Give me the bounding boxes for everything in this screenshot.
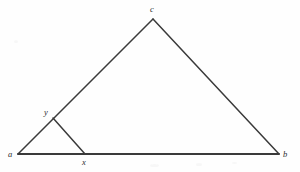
vertex-label-c: c (150, 5, 154, 14)
vertex-label-y: y (44, 108, 48, 117)
scan-artifact (14, 40, 18, 43)
vertex-label-b: b (283, 150, 287, 159)
scan-artifact (232, 162, 237, 164)
segment-ac (18, 19, 153, 154)
diagram-canvas: c y a x b (0, 0, 300, 172)
segments-group (18, 19, 279, 154)
scan-artifact (196, 163, 202, 166)
vertex-label-x: x (82, 158, 86, 167)
vertex-label-a: a (8, 150, 12, 159)
segment-yx (53, 118, 85, 154)
scan-artifact (150, 164, 159, 167)
segment-cb (153, 19, 279, 154)
triangle-figure (0, 0, 300, 172)
